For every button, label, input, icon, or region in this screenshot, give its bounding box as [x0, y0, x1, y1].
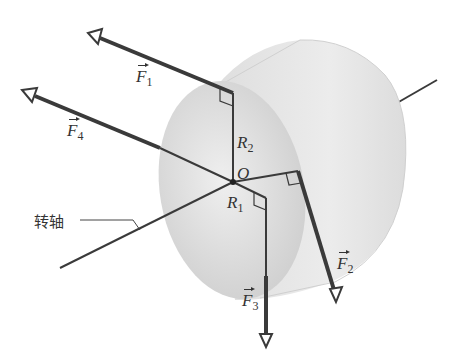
- rotation-diagram: [0, 0, 453, 363]
- origin-point: [230, 179, 236, 185]
- axis-leader: [80, 220, 140, 230]
- label-o: O: [237, 165, 249, 182]
- label-f1: F1: [136, 68, 152, 88]
- label-axis: 转轴: [34, 210, 64, 231]
- label-f3: F3: [242, 292, 258, 312]
- arrowhead-f4: [22, 88, 37, 102]
- arrowhead-f2: [330, 287, 342, 302]
- label-r1: R1: [227, 194, 243, 214]
- label-f2: F2: [337, 255, 353, 275]
- label-f4: F4: [67, 122, 83, 142]
- arrowhead-f3: [260, 334, 272, 347]
- force-f1: [100, 38, 233, 93]
- force-f4: [35, 96, 160, 148]
- label-r2: R2: [237, 134, 253, 154]
- arrowhead-f1: [88, 29, 102, 44]
